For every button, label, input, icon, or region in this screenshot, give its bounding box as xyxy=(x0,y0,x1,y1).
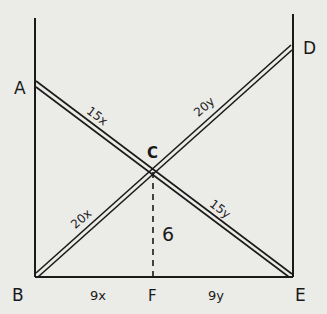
segment-ae xyxy=(36,81,292,277)
point-label-b: B xyxy=(12,287,24,304)
point-label-f: F xyxy=(148,289,157,304)
segment-label-cf: 6 xyxy=(162,225,174,244)
point-label-c: C xyxy=(147,146,158,161)
segment-label-bf: 9x xyxy=(90,289,106,302)
point-label-d: D xyxy=(303,40,316,57)
point-label-a: A xyxy=(14,80,26,97)
segment-label-fe: 9y xyxy=(208,289,224,302)
point-label-e: E xyxy=(295,287,306,304)
diagram-canvas xyxy=(0,0,327,314)
